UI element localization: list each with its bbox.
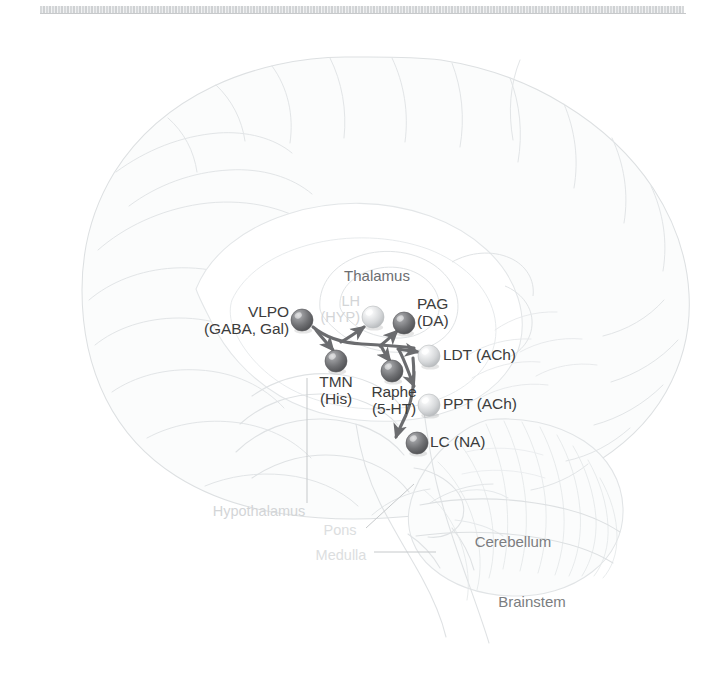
anatomy-label-thalamus: Thalamus bbox=[317, 268, 437, 284]
node-label-raphe: Raphe (5-HT) bbox=[350, 384, 438, 417]
node-label-pag-line1: PAG bbox=[417, 296, 507, 313]
node-label-pag: PAG (DA) bbox=[417, 296, 507, 329]
node-label-ldt: LDT (ACh) bbox=[443, 347, 563, 364]
node-label-raphe-line2: (5-HT) bbox=[350, 401, 438, 418]
anatomy-label-brainstem: Brainstem bbox=[477, 594, 587, 610]
anatomy-label-pons: Pons bbox=[300, 523, 380, 539]
node-label-vlpo: VLPO (GABA, Gal) bbox=[129, 304, 289, 337]
node-label-lh-line2: (HYP) bbox=[280, 310, 360, 326]
node-label-ppt-line1: PPT (ACh) bbox=[443, 396, 563, 413]
anatomy-label-cerebellum: Cerebellum bbox=[453, 534, 573, 550]
node-label-raphe-line1: Raphe bbox=[350, 384, 438, 401]
anatomy-label-medulla: Medulla bbox=[291, 548, 391, 564]
anatomy-label-hypothalamus: Hypothalamus bbox=[189, 504, 329, 520]
node-label-vlpo-line2: (GABA, Gal) bbox=[129, 321, 289, 338]
node-label-ldt-line1: LDT (ACh) bbox=[443, 347, 563, 364]
node-label-lh: LH (HYP) bbox=[280, 294, 360, 325]
node-label-vlpo-line1: VLPO bbox=[129, 304, 289, 321]
brain-sleep-circuit-figure: VLPO (GABA, Gal) LH (HYP) PAG (DA) TMN (… bbox=[0, 0, 724, 674]
node-label-lc: LC (NA) bbox=[430, 434, 540, 451]
node-label-pag-line2: (DA) bbox=[417, 313, 507, 330]
node-label-lc-line1: LC (NA) bbox=[430, 434, 540, 451]
node-label-ppt: PPT (ACh) bbox=[443, 396, 563, 413]
sphere-layer bbox=[0, 0, 724, 674]
node-label-lh-line1: LH bbox=[280, 294, 360, 310]
